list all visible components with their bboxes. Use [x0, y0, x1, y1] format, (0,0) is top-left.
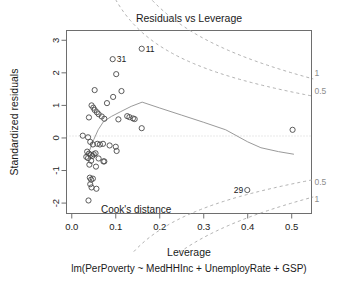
y-tick-label: -2	[50, 199, 61, 207]
cooks-contour-label: 0.5	[315, 177, 327, 187]
model-formula-subtitle: lm(PerPoverty ~ MedHHInc + UnemployRate …	[71, 263, 306, 274]
y-tick-label: 2	[50, 70, 61, 75]
x-tick-label: 0.5	[285, 221, 298, 232]
y-axis-ticks: 3210-1-2	[50, 38, 67, 208]
data-point-label-31: 31	[117, 54, 127, 64]
x-tick-label: 0.1	[109, 221, 122, 232]
data-point	[107, 143, 112, 148]
y-tick-label: 0	[50, 135, 61, 140]
plot-canvas: Residuals vs Leverage Standardized resid…	[0, 0, 341, 293]
y-axis-title: Standardized residuals	[8, 69, 20, 176]
data-point	[139, 46, 144, 51]
x-tick-label: 0.4	[241, 221, 254, 232]
data-point	[86, 115, 91, 120]
cooks-distance-annotation: Cook's distance	[101, 204, 172, 215]
cooks-contour-label: 1	[315, 68, 320, 78]
x-tick-label: 0.3	[197, 221, 210, 232]
y-tick-label: 1	[50, 103, 61, 108]
y-tick-label: -1	[50, 166, 61, 174]
data-point	[245, 187, 250, 192]
data-point	[93, 164, 98, 169]
cooks-distance-contour-labels: 10.50.51	[315, 68, 327, 204]
data-point	[86, 198, 91, 203]
loess-smooth-line	[85, 102, 294, 156]
data-point-label-11: 11	[146, 44, 155, 54]
x-axis-title: Leverage	[167, 246, 211, 258]
data-point	[116, 117, 121, 122]
cooks-contour-label: 1	[315, 194, 320, 204]
data-points	[80, 46, 295, 203]
data-point	[111, 94, 116, 99]
data-point	[290, 127, 295, 132]
chart-title: Residuals vs Leverage	[136, 12, 242, 24]
data-point	[90, 176, 95, 181]
data-point-label-29: 29	[234, 185, 244, 195]
data-point	[104, 101, 109, 106]
data-point	[94, 186, 99, 191]
cooks-contour-label: 0.5	[315, 86, 327, 96]
data-point	[119, 88, 124, 93]
x-tick-label: 0.2	[153, 221, 166, 232]
cooks-contour-0.5-lower	[134, 180, 313, 252]
data-point	[139, 126, 144, 131]
smooth-trend-line	[85, 102, 294, 156]
x-axis-ticks: 0.00.10.20.30.40.5	[65, 214, 298, 232]
residuals-vs-leverage-plot: Residuals vs Leverage Standardized resid…	[0, 0, 341, 293]
y-tick-label: 3	[50, 38, 61, 43]
data-point	[100, 141, 105, 146]
data-point	[89, 185, 94, 190]
data-point	[114, 72, 119, 77]
data-point	[110, 57, 115, 62]
data-point	[92, 87, 97, 92]
data-point	[96, 156, 101, 161]
x-tick-label: 0.0	[65, 221, 78, 232]
